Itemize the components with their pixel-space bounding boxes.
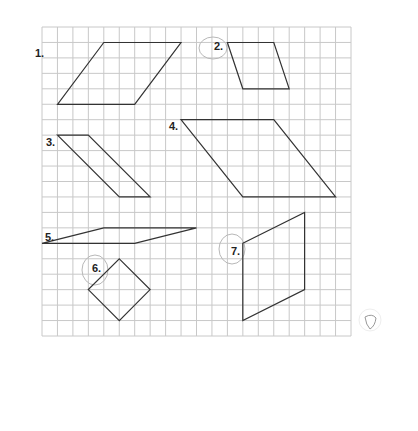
shape-label-3: 3. (46, 136, 55, 148)
shape-label-2: 2. (214, 40, 223, 52)
pencil-marks (82, 37, 245, 285)
shape-label-5: 5. (45, 231, 54, 243)
shape-label-1: 1. (35, 47, 44, 59)
shape-label-4: 4. (169, 120, 178, 132)
shape-label-7: 7. (231, 245, 240, 257)
worksheet-grid: 1.2.3.4.5.6.7. (0, 0, 418, 431)
shape-label-6: 6. (92, 262, 101, 274)
stray-pencil-mark-icon (359, 309, 381, 331)
parallelograms: 1.2.3.4.5.6.7. (35, 40, 336, 321)
